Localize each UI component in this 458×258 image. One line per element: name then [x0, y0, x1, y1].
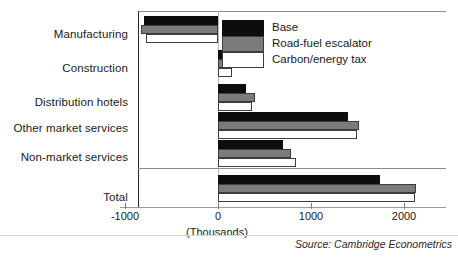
x-tick-label-1000: 1000 [299, 210, 323, 222]
legend-label-road-fuel-escalator: Road-fuel escalator [272, 37, 372, 49]
bar-road-fuel-escalator-non-market-services [218, 149, 291, 158]
x-tick-label-2000: 2000 [392, 210, 416, 222]
x-tick-2000 [404, 203, 405, 209]
bar-carbon-energy-tax-other-market-services [218, 130, 357, 139]
total-separator-rule [138, 168, 446, 169]
x-axis-title: (Thousands) [0, 226, 458, 238]
category-label-manufacturing: Manufacturing [54, 28, 128, 40]
source-note: Source: Cambridge Econometrics [295, 238, 452, 250]
category-label-distribution-hotels: Distribution hotels [35, 96, 128, 108]
clipped-title [170, 0, 440, 3]
category-label-non-market-services: Non-market services [21, 151, 128, 163]
bar-road-fuel-escalator-total [218, 184, 416, 193]
bar-road-fuel-escalator-distribution-hotels [218, 93, 255, 102]
category-axis-labels: Manufacturing Construction Distribution … [0, 11, 134, 207]
legend-swatch-carbon-energy-tax [222, 52, 264, 68]
legend-swatch-road-fuel-escalator [222, 36, 264, 52]
legend-label-base: Base [272, 21, 298, 33]
legend-label-carbon-energy-tax: Carbon/energy tax [272, 53, 367, 65]
category-label-other-market-services: Other market services [13, 122, 128, 134]
chart-figure: Manufacturing Construction Distribution … [0, 0, 458, 258]
bar-base-other-market-services [218, 112, 348, 121]
bar-carbon-energy-tax-manufacturing [146, 34, 218, 43]
bar-road-fuel-escalator-manufacturing [141, 25, 218, 34]
x-tick--1000 [125, 203, 126, 209]
footer-divider [0, 235, 458, 236]
chart-legend: Base Road-fuel escalator Carbon/energy t… [222, 20, 282, 68]
bar-carbon-energy-tax-non-market-services [218, 158, 296, 167]
x-axis-line [120, 207, 446, 208]
x-tick-1000 [311, 203, 312, 209]
x-tick-0 [218, 203, 219, 209]
bar-road-fuel-escalator-other-market-services [218, 121, 359, 130]
x-tick-label-0: 0 [215, 210, 221, 222]
legend-swatch-base [222, 20, 264, 36]
category-label-construction: Construction [62, 62, 128, 74]
bar-base-manufacturing [144, 16, 218, 25]
bar-base-total [218, 175, 380, 184]
bar-base-non-market-services [218, 140, 283, 149]
x-axis-title-text: (Thousands) [186, 226, 248, 238]
bar-carbon-energy-tax-total [218, 193, 415, 202]
bar-carbon-energy-tax-construction [218, 68, 232, 77]
category-label-total: Total [103, 191, 128, 203]
x-tick-label--1000: -1000 [111, 210, 139, 222]
bar-carbon-energy-tax-distribution-hotels [218, 102, 252, 111]
bar-base-distribution-hotels [218, 84, 246, 93]
